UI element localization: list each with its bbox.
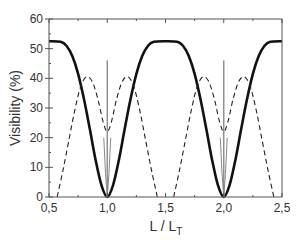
- x-tick-label: 1,5: [157, 201, 174, 215]
- x-tick-label: 2,0: [215, 201, 232, 215]
- y-tick-label: 0: [36, 190, 43, 204]
- x-axis-title: L / LT: [150, 218, 183, 237]
- y-tick-label: 20: [30, 131, 44, 145]
- visibility-chart: 0,51,01,52,02,50102030405060 Visibility …: [0, 0, 300, 246]
- y-tick-label: 50: [30, 42, 44, 56]
- axes-frame: [49, 19, 282, 197]
- series-layer: [49, 41, 282, 197]
- series-dashed: [57, 77, 274, 197]
- y-tick-label: 60: [30, 12, 44, 26]
- x-tick-label: 1,0: [99, 201, 116, 215]
- series-thick-solid: [49, 41, 282, 197]
- y-tick-label: 40: [30, 71, 44, 85]
- x-tick-label: 2,5: [274, 201, 291, 215]
- y-tick-label: 10: [30, 160, 44, 174]
- y-axis-title: Visibility (%): [7, 70, 23, 146]
- y-tick-label: 30: [30, 101, 44, 115]
- x-tick-label: 0,5: [41, 201, 58, 215]
